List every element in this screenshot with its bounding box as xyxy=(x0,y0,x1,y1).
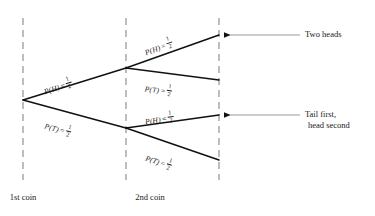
callout-line-tail-first: Tail first, xyxy=(305,109,350,120)
callout-text-two-heads: Two heads xyxy=(305,29,341,40)
callout-arrows xyxy=(224,35,300,115)
callout-line-two-heads-1: Two heads xyxy=(305,29,341,40)
branch-event-second-heads-lower: P(H) xyxy=(144,115,161,126)
branch-second-tails-upper xyxy=(126,68,219,80)
callout-line-head-second: head second xyxy=(305,120,350,131)
stage-label-first-coin: 1st coin xyxy=(0,192,46,202)
probability-tree-diagram: P(H)=12 P(T)=12 P(H)=12 P(T)=12 P(H)=12 … xyxy=(0,0,375,216)
branch-event-second-tails-upper: P(T) xyxy=(144,84,160,95)
branch-first-heads xyxy=(23,68,126,100)
branch-second-tails-lower xyxy=(126,128,219,160)
stage-label-second-coin: 2nd coin xyxy=(127,192,173,202)
branch-first-tails xyxy=(23,100,126,128)
guide-lines xyxy=(23,18,219,180)
branch-denominator-second-tails-upper: 2 xyxy=(166,89,172,97)
tree-branches xyxy=(23,35,219,160)
branch-denominator-second-heads-lower: 2 xyxy=(168,116,174,124)
branch-second-heads-upper xyxy=(126,35,219,68)
callout-text-tail-first-head-second: Tail first, head second xyxy=(305,109,350,132)
